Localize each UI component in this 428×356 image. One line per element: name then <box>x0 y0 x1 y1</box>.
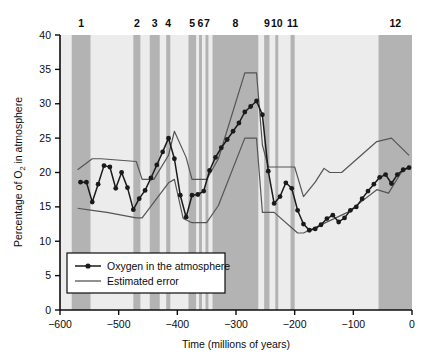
x-axis-ticks: −600−500−400−300−200−1000 <box>48 310 415 330</box>
oxygen-data-point <box>90 200 95 205</box>
oxygen-data-point <box>313 226 318 231</box>
oxygen-data-point <box>336 220 341 225</box>
y-axis-title: Percentage of O2 in atmosphere <box>12 97 27 247</box>
oxygen-data-point <box>195 192 200 197</box>
band-label-7: 7 <box>204 17 210 29</box>
oxygen-data-point <box>366 189 371 194</box>
oxygen-data-point <box>330 213 335 218</box>
x-tick-label: 0 <box>409 318 415 330</box>
y-tick-label: 30 <box>39 97 51 109</box>
oxygen-data-point <box>360 196 365 201</box>
oxygen-data-point <box>225 137 230 142</box>
oxygen-data-point <box>166 136 171 141</box>
oxygen-data-point <box>266 169 271 174</box>
oxygen-data-point <box>84 180 89 185</box>
y-tick-label: 15 <box>39 200 51 212</box>
legend-box <box>67 253 225 293</box>
x-tick-label: −100 <box>342 318 366 330</box>
oxygen-data-point <box>107 165 112 170</box>
oxygen-data-point <box>78 180 83 185</box>
x-tick-label: −500 <box>107 318 131 330</box>
x-tick-label: −600 <box>48 318 72 330</box>
chart-legend: Oxygen in the atmosphere Estimated error <box>67 253 230 293</box>
band-label-8: 8 <box>232 17 238 29</box>
oxygen-data-point <box>119 170 124 175</box>
shaded-band-11 <box>291 35 295 310</box>
oxygen-data-point <box>213 155 218 160</box>
oxygen-data-point <box>207 168 212 173</box>
oxygen-data-point <box>113 186 118 191</box>
x-tick-label: −300 <box>224 318 248 330</box>
y-tick-label: 35 <box>39 63 51 75</box>
band-label-5: 5 <box>189 17 195 29</box>
oxygen-data-point <box>348 208 353 213</box>
oxygen-data-point <box>143 188 148 193</box>
band-number-labels: 123456789101112 <box>78 17 401 29</box>
oxygen-data-point <box>201 189 206 194</box>
y-tick-label: 25 <box>39 132 51 144</box>
oxygen-data-point <box>237 121 242 126</box>
oxygen-atmosphere-chart-figure: 0510152025303540 −600−500−400−300−200−10… <box>0 0 428 356</box>
oxygen-data-point <box>377 175 382 180</box>
oxygen-data-point <box>301 222 306 227</box>
oxygen-data-point <box>242 110 247 115</box>
y-tick-label: 5 <box>45 269 51 281</box>
band-label-6: 6 <box>198 17 204 29</box>
band-label-2: 2 <box>134 17 140 29</box>
band-label-3: 3 <box>152 17 158 29</box>
oxygen-data-point <box>154 163 159 168</box>
oxygen-data-point <box>283 180 288 185</box>
band-label-12: 12 <box>389 17 401 29</box>
oxygen-data-point <box>102 163 107 168</box>
shaded-band-10 <box>275 35 278 310</box>
oxygen-data-point <box>190 193 195 198</box>
band-label-4: 4 <box>165 17 171 29</box>
oxygen-data-point <box>125 185 130 190</box>
band-label-11: 11 <box>287 17 298 29</box>
x-axis-title: Time (millions of years) <box>182 338 290 350</box>
oxygen-data-point <box>295 208 300 213</box>
oxygen-data-point <box>149 176 154 181</box>
shaded-band-12 <box>379 35 412 310</box>
x-tick-label: −200 <box>283 318 307 330</box>
legend-label-oxygen: Oxygen in the atmosphere <box>107 260 230 272</box>
oxygen-data-point <box>231 129 236 134</box>
band-label-9: 9 <box>264 17 270 29</box>
oxygen-data-point <box>254 99 259 104</box>
oxygen-data-point <box>137 196 142 201</box>
oxygen-data-point <box>178 193 183 198</box>
y-tick-label: 40 <box>39 29 51 41</box>
y-tick-label: 20 <box>39 166 51 178</box>
oxygen-data-point <box>371 182 376 187</box>
chart-canvas: 0510152025303540 −600−500−400−300−200−10… <box>0 0 428 356</box>
oxygen-data-point <box>307 228 312 233</box>
oxygen-data-point <box>219 145 224 150</box>
band-label-1: 1 <box>78 17 84 29</box>
oxygen-data-point <box>389 181 394 186</box>
oxygen-data-point <box>160 149 165 154</box>
band-label-10: 10 <box>271 17 283 29</box>
oxygen-data-point <box>354 204 359 209</box>
oxygen-data-point <box>319 222 324 227</box>
oxygen-data-point <box>395 172 400 177</box>
oxygen-data-point <box>131 207 136 212</box>
x-tick-label: −400 <box>166 318 190 330</box>
oxygen-data-point <box>407 165 412 170</box>
oxygen-data-point <box>96 182 101 187</box>
y-tick-label: 10 <box>39 235 51 247</box>
oxygen-data-point <box>260 112 265 117</box>
oxygen-data-point <box>342 215 347 220</box>
legend-swatch-oxygen-marker <box>85 263 90 268</box>
oxygen-data-point <box>383 172 388 177</box>
oxygen-data-point <box>401 167 406 172</box>
oxygen-data-point <box>184 215 189 220</box>
oxygen-data-point <box>172 156 177 161</box>
oxygen-data-point <box>272 201 277 206</box>
oxygen-data-point <box>248 104 253 109</box>
legend-label-error: Estimated error <box>107 275 179 287</box>
y-axis-ticks: 0510152025303540 <box>39 29 60 316</box>
oxygen-data-point <box>289 186 294 191</box>
oxygen-data-point <box>325 216 330 221</box>
oxygen-data-point <box>278 194 283 199</box>
y-tick-label: 0 <box>45 304 51 316</box>
